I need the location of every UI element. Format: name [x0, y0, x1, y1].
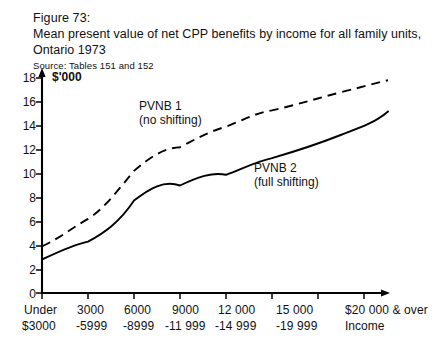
x-tick-label-6-top: $20 000 & over — [345, 303, 428, 317]
annotation-pvnb-2-note: (full shifting) — [254, 175, 319, 189]
figure-container: Figure 73: Mean present value of net CPP… — [0, 0, 445, 344]
x-tick-label-4-bottom: -14 999 — [215, 319, 256, 333]
annotation-pvnb-2-name: PVNB 2 — [254, 161, 319, 175]
x-tick-label-2-bottom: -8999 — [123, 319, 154, 333]
x-tick-label-1-top: 3000 — [77, 303, 104, 317]
annotation-pvnb-1: PVNB 1 (no shifting) — [139, 99, 202, 127]
annotation-pvnb-1-note: (no shifting) — [139, 113, 202, 127]
x-tick-label-5-top: 15 000 — [276, 303, 313, 317]
x-tick-label-4-top: 12 000 — [218, 303, 255, 317]
x-tick-label-1-bottom: -5999 — [76, 319, 107, 333]
x-axis-arrowhead — [381, 289, 390, 296]
plot-area — [0, 0, 445, 344]
annotation-pvnb-1-name: PVNB 1 — [139, 99, 202, 113]
x-tick-label-0-bottom: $3000 — [22, 319, 56, 333]
y-axis-arrowhead — [38, 68, 45, 77]
x-tick-label-3-top: 9000 — [172, 303, 199, 317]
annotation-pvnb-2: PVNB 2 (full shifting) — [254, 161, 319, 189]
x-axis-title: Income — [345, 319, 384, 333]
x-tick-label-5-bottom: -19 999 — [276, 319, 317, 333]
x-tick-label-0-top: Under — [24, 303, 57, 317]
series-pvnb-1-line — [42, 80, 388, 246]
x-tick-label-2-top: 6000 — [124, 303, 151, 317]
x-tick-label-3-bottom: -11 999 — [165, 319, 206, 333]
series-pvnb-2-line — [42, 112, 388, 260]
